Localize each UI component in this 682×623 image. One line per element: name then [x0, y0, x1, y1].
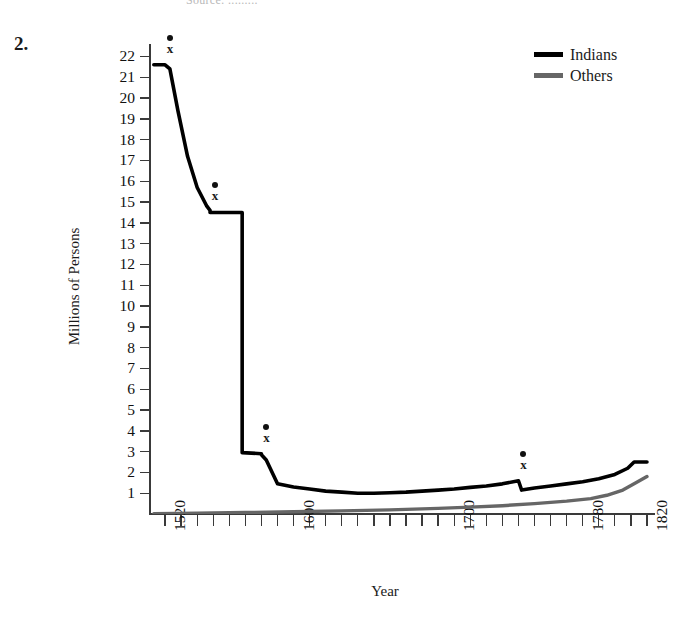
y-tick-2 — [140, 472, 149, 473]
y-tick-label-22: 22 — [101, 48, 135, 64]
y-tick-label-8: 8 — [101, 340, 135, 356]
y-tick-label-2: 2 — [101, 464, 135, 480]
y-tick-label-16: 16 — [101, 173, 135, 189]
page-top-text-remnant: Source: ......... — [186, 0, 656, 7]
x-tick-1560 — [229, 514, 230, 526]
y-tick-label-19: 19 — [101, 111, 135, 127]
marker-x-label: x — [255, 431, 277, 444]
x-tick-1670 — [405, 514, 406, 526]
legend-item-others: Others — [534, 65, 674, 86]
y-tick-22 — [140, 56, 149, 57]
series-line-indians — [154, 65, 647, 493]
chart-legend: Indians Others — [534, 44, 674, 86]
y-tick-13 — [140, 243, 149, 244]
y-tick-label-15: 15 — [101, 194, 135, 210]
x-tick-1520 — [164, 514, 165, 526]
y-tick-3 — [140, 451, 149, 452]
y-tick-10 — [140, 305, 149, 306]
x-tick-1760 — [550, 514, 551, 526]
x-tick-1800 — [614, 514, 615, 526]
x-tick-1700 — [454, 514, 455, 526]
y-axis-title: Millions of Persons — [66, 197, 83, 377]
x-tick-1630 — [341, 514, 342, 526]
annotation-marker-1: x — [159, 35, 181, 55]
x-tick-1820 — [646, 514, 647, 526]
x-tick-1780 — [582, 514, 583, 526]
marker-x-label: x — [512, 458, 534, 471]
y-tick-label-20: 20 — [101, 90, 135, 106]
x-tick-1660 — [389, 514, 390, 526]
y-tick-15 — [140, 201, 149, 202]
y-tick-9 — [140, 326, 149, 327]
x-tick-label-1820: 1820 — [653, 500, 671, 531]
x-tick-1740 — [518, 514, 519, 526]
y-tick-label-21: 21 — [101, 69, 135, 85]
y-tick-label-18: 18 — [101, 132, 135, 148]
y-tick-14 — [140, 222, 149, 223]
y-tick-6 — [140, 389, 149, 390]
y-tick-label-4: 4 — [101, 423, 135, 439]
marker-dot-icon — [520, 451, 526, 457]
y-tick-1 — [140, 493, 149, 494]
y-tick-label-14: 14 — [101, 215, 135, 231]
legend-label-others: Others — [570, 68, 613, 84]
x-tick-1690 — [437, 514, 438, 526]
marker-dot-icon — [167, 35, 173, 41]
y-tick-label-12: 12 — [101, 256, 135, 272]
annotation-marker-3: x — [255, 424, 277, 444]
y-tick-19 — [140, 118, 149, 119]
marker-x-label: x — [159, 42, 181, 55]
y-tick-label-11: 11 — [101, 277, 135, 293]
x-axis-title: Year — [240, 583, 530, 600]
y-tick-label-3: 3 — [101, 444, 135, 460]
x-tick-1600 — [293, 514, 294, 526]
marker-dot-icon — [263, 424, 269, 430]
y-tick-4 — [140, 430, 149, 431]
x-tick-1640 — [357, 514, 358, 526]
x-tick-1730 — [502, 514, 503, 526]
marker-x-label: x — [204, 189, 226, 202]
y-tick-12 — [140, 264, 149, 265]
x-tick-1570 — [245, 514, 246, 526]
item-number-label: 2. — [14, 33, 28, 55]
y-tick-label-13: 13 — [101, 236, 135, 252]
y-tick-8 — [140, 347, 149, 348]
y-tick-label-17: 17 — [101, 152, 135, 168]
y-tick-17 — [140, 160, 149, 161]
x-tick-1650 — [373, 514, 374, 526]
y-tick-21 — [140, 77, 149, 78]
x-tick-1770 — [566, 514, 567, 526]
x-tick-1580 — [261, 514, 262, 526]
x-tick-1720 — [486, 514, 487, 526]
y-tick-label-5: 5 — [101, 402, 135, 418]
y-tick-16 — [140, 181, 149, 182]
x-tick-1550 — [213, 514, 214, 526]
y-tick-label-10: 10 — [101, 298, 135, 314]
y-tick-label-9: 9 — [101, 319, 135, 335]
plot-area — [149, 44, 655, 514]
y-tick-11 — [140, 285, 149, 286]
y-tick-label-6: 6 — [101, 381, 135, 397]
chart-page: Source: ......... 2. Millions of Persons… — [0, 0, 682, 623]
legend-label-indians: Indians — [570, 47, 617, 63]
y-tick-20 — [140, 97, 149, 98]
y-tick-18 — [140, 139, 149, 140]
y-tick-5 — [140, 409, 149, 410]
chart-lines — [149, 44, 655, 514]
x-tick-1750 — [534, 514, 535, 526]
annotation-marker-4: x — [512, 451, 534, 471]
x-tick-1540 — [197, 514, 198, 526]
y-tick-label-7: 7 — [101, 360, 135, 376]
legend-swatch-others — [534, 73, 563, 78]
x-tick-1620 — [325, 514, 326, 526]
y-tick-label-1: 1 — [101, 485, 135, 501]
x-tick-1590 — [277, 514, 278, 526]
x-tick-1810 — [630, 514, 631, 526]
legend-swatch-indians — [534, 52, 563, 57]
y-tick-7 — [140, 368, 149, 369]
legend-item-indians: Indians — [534, 44, 674, 65]
x-tick-1680 — [421, 514, 422, 526]
annotation-marker-2: x — [204, 182, 226, 202]
